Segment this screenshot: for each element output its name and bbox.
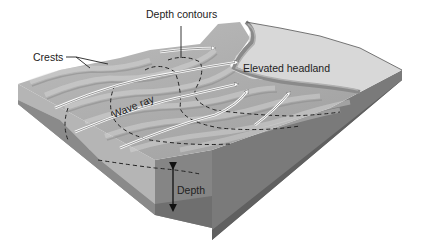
wave-refraction-diagram: Depth contours Crests Elevated headland … (0, 0, 430, 242)
label-depth: Depth (177, 184, 205, 196)
label-crests: Crests (33, 51, 63, 63)
label-depth-contours: Depth contours (146, 8, 217, 20)
label-elevated-headland: Elevated headland (243, 62, 330, 74)
